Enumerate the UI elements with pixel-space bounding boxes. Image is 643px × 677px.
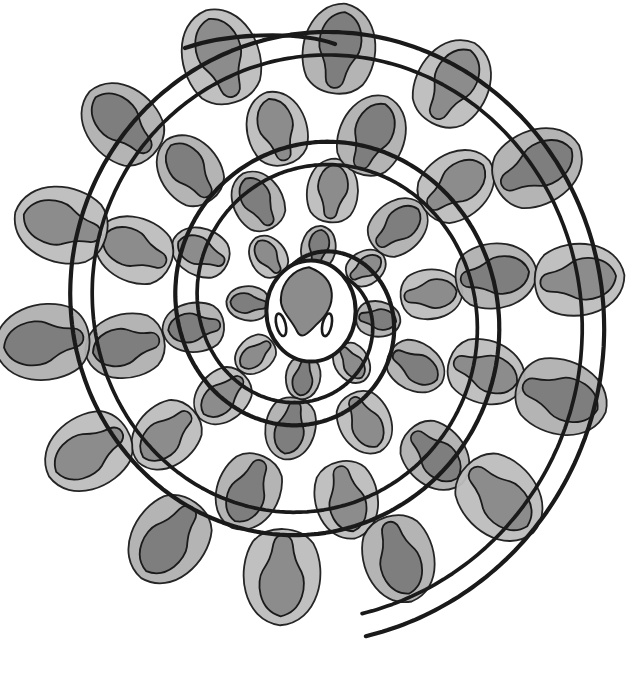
artwork-canvas: Spiral Mandala concentric spiral colorin…	[0, 0, 643, 677]
center-medallion-layer	[266, 260, 355, 361]
spiral-mandala-drawing	[0, 0, 643, 677]
